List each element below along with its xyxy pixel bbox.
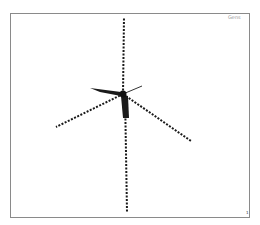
arm-up [123,17,124,94]
arm-left [56,94,123,127]
arm-right [123,94,191,141]
down-wedge [121,96,129,118]
hub-node [120,91,127,98]
left-wedge [90,88,121,96]
star-diagram [0,0,260,225]
